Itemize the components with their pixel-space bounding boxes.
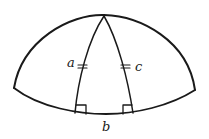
- label-c: c: [135, 59, 143, 74]
- base-arc: [14, 88, 195, 114]
- label-a: a: [67, 55, 75, 70]
- spherical-triangle-diagram: a c b: [0, 0, 209, 139]
- dome-arc: [14, 15, 195, 90]
- tick-marks-c: [121, 65, 130, 68]
- label-b: b: [102, 119, 110, 134]
